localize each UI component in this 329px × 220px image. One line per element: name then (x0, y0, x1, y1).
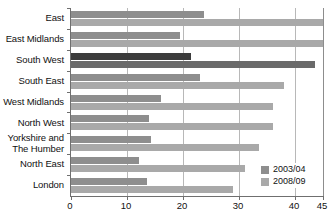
x-axis-tick-label: 40 (289, 200, 300, 212)
category-label: East (0, 8, 68, 29)
category-label: North West (0, 112, 68, 133)
chart-legend: 2003/042008/09 (258, 163, 308, 188)
category-label: South East (0, 71, 68, 92)
category-tick (67, 112, 71, 113)
x-axis-tick-labels: 01020304045 (70, 200, 322, 214)
bar (71, 186, 233, 193)
bar (71, 74, 200, 81)
category-axis: EastEast MidlandsSouth WestSouth EastWes… (0, 8, 68, 196)
x-axis-tick-label: 10 (121, 200, 132, 212)
bar-group (71, 112, 323, 133)
category-label: South West (0, 50, 68, 71)
x-axis-tick-label: 0 (67, 200, 72, 212)
bar (71, 95, 161, 102)
bar-group (71, 92, 323, 113)
bar (71, 136, 151, 143)
category-tick (67, 50, 71, 51)
category-tick (67, 8, 71, 9)
category-tick (67, 154, 71, 155)
legend-item: 2008/09 (261, 177, 306, 186)
bar-group (71, 29, 323, 50)
bar (71, 178, 147, 185)
bar (71, 115, 149, 122)
legend-label: 2008/09 (273, 177, 306, 186)
category-label: West Midlands (0, 92, 68, 113)
bar (71, 61, 315, 68)
legend-label: 2003/04 (273, 165, 306, 174)
legend-swatch-icon (261, 166, 269, 174)
category-label: London (0, 175, 68, 196)
bar-group (71, 71, 323, 92)
category-tick (67, 133, 71, 134)
bar (71, 11, 204, 18)
category-label: East Midlands (0, 29, 68, 50)
bar (71, 103, 273, 110)
bar-group (71, 50, 323, 71)
bar (71, 82, 284, 89)
bar-group (71, 133, 323, 154)
bar (71, 165, 245, 172)
category-tick (67, 92, 71, 93)
category-tick (67, 29, 71, 30)
legend-swatch-icon (261, 178, 269, 186)
bar (71, 32, 180, 39)
bar-chart: EastEast MidlandsSouth WestSouth EastWes… (0, 0, 329, 220)
bar (71, 53, 191, 60)
bar (71, 40, 323, 47)
legend-item: 2003/04 (261, 165, 306, 174)
bar (71, 144, 259, 151)
bar (71, 157, 139, 164)
x-axis-tick-label: 20 (177, 200, 188, 212)
category-tick (67, 175, 71, 176)
category-label: Yorkshire and The Humber (0, 133, 68, 154)
x-axis-tick-label: 45 (317, 200, 328, 212)
bar (71, 19, 323, 26)
category-label: North East (0, 154, 68, 175)
category-tick (67, 71, 71, 72)
gridline (323, 8, 324, 196)
bar (71, 123, 273, 130)
bar-group (71, 8, 323, 29)
x-axis-tick-label: 30 (233, 200, 244, 212)
